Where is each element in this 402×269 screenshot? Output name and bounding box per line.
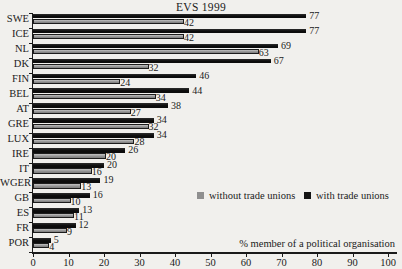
category-label: IT <box>0 164 29 174</box>
y-axis-tick <box>29 88 32 89</box>
x-axis-label: % member of a political organisation <box>239 238 395 249</box>
value-label-without: 32 <box>149 63 159 73</box>
x-axis-tick-label: 40 <box>170 258 181 268</box>
y-axis-tick <box>29 58 32 59</box>
category-label: GRE <box>0 119 29 129</box>
bar-without-trade-unions <box>33 198 71 203</box>
legend-label-without: without trade unions <box>209 190 295 201</box>
y-axis-tick <box>29 222 32 223</box>
category-label: BEL <box>0 89 29 99</box>
y-axis-tick <box>29 163 32 164</box>
value-label-without: 63 <box>259 48 269 58</box>
category-label: WGER <box>0 178 29 188</box>
value-label-with: 12 <box>79 220 89 230</box>
category-label: FR <box>0 223 29 233</box>
value-label-without: 16 <box>92 167 102 177</box>
category-label: GB <box>0 193 29 203</box>
value-label-with: 16 <box>93 190 103 200</box>
value-label-with: 20 <box>107 160 117 170</box>
category-label: ICE <box>0 29 29 39</box>
y-axis-tick <box>29 13 32 14</box>
bar-with-trade-unions <box>33 44 278 49</box>
bar-with-trade-unions <box>33 14 306 19</box>
bar-without-trade-unions <box>33 64 149 69</box>
x-axis-tick-label: 30 <box>134 258 145 268</box>
category-label: LUX <box>0 134 29 144</box>
y-axis-tick <box>29 118 32 119</box>
x-axis-tick-label: 10 <box>63 258 74 268</box>
category-label: IRE <box>0 149 29 159</box>
category-label: NL <box>0 44 29 54</box>
value-label-with: 38 <box>171 101 181 111</box>
value-label-without: 10 <box>71 197 81 207</box>
x-axis-tick-label: 100 <box>380 258 396 268</box>
legend-swatch-without-icon <box>197 192 204 199</box>
bar-without-trade-unions <box>33 228 67 233</box>
y-axis-tick <box>29 252 32 253</box>
bar-without-trade-unions <box>33 183 81 188</box>
value-label-with: 44 <box>192 86 202 96</box>
bar-without-trade-unions <box>33 124 149 129</box>
bar-without-trade-unions <box>33 109 131 114</box>
chart-title: EVS 1999 <box>0 1 402 13</box>
bar-without-trade-unions <box>33 139 134 144</box>
bar-with-trade-unions <box>33 238 51 243</box>
value-label-without: 13 <box>81 182 91 192</box>
y-axis-tick <box>29 237 32 238</box>
bar-with-trade-unions <box>33 74 196 79</box>
value-label-with: 67 <box>274 56 284 66</box>
value-label-without: 9 <box>67 227 72 237</box>
value-label-without: 42 <box>184 33 194 43</box>
bar-with-trade-unions <box>33 103 168 108</box>
value-label-without: 24 <box>120 78 130 88</box>
x-axis-tick-label: 70 <box>276 258 287 268</box>
y-axis-line <box>32 13 33 252</box>
x-axis-tick-label: 50 <box>205 258 216 268</box>
bar-without-trade-unions <box>33 79 120 84</box>
category-label: DK <box>0 59 29 69</box>
value-label-with: 46 <box>199 71 209 81</box>
bar-with-trade-unions <box>33 208 79 213</box>
value-label-with: 19 <box>103 175 113 185</box>
category-label: SWE <box>0 14 29 24</box>
bar-without-trade-unions <box>33 34 184 39</box>
value-label-without: 27 <box>131 108 141 118</box>
value-label-with: 77 <box>309 26 319 36</box>
legend-label-with: with trade unions <box>316 190 389 201</box>
category-label: AT <box>0 104 29 114</box>
value-label-with: 77 <box>309 11 319 21</box>
category-label: FIN <box>0 74 29 84</box>
y-axis-tick <box>29 192 32 193</box>
value-label-without: 4 <box>49 242 54 252</box>
y-axis-tick <box>29 148 32 149</box>
value-label-with: 34 <box>157 130 167 140</box>
y-axis-tick <box>29 207 32 208</box>
value-label-without: 34 <box>156 93 166 103</box>
y-axis-tick <box>29 103 32 104</box>
y-axis-tick <box>29 133 32 134</box>
y-axis-tick <box>29 43 32 44</box>
x-axis-tick-label: 80 <box>312 258 323 268</box>
x-axis-tick-label: 60 <box>241 258 252 268</box>
bar-without-trade-unions <box>33 153 106 158</box>
bar-with-trade-unions <box>33 193 90 198</box>
y-axis-tick <box>29 73 32 74</box>
legend-item-with-trade-unions: with trade unions <box>304 190 389 201</box>
legend-item-without-trade-unions: without trade unions <box>197 190 295 201</box>
value-label-with: 5 <box>54 235 59 245</box>
x-axis-tick-label: 90 <box>347 258 358 268</box>
x-axis-tick-label: 0 <box>30 258 35 268</box>
y-axis-tick <box>29 177 32 178</box>
bar-without-trade-unions <box>33 19 184 24</box>
legend-swatch-with-icon <box>304 192 311 199</box>
bar-with-trade-unions <box>33 118 154 123</box>
category-label: ES <box>0 208 29 218</box>
x-axis-line <box>32 252 397 253</box>
bar-without-trade-unions <box>33 168 92 173</box>
value-label-without: 42 <box>184 18 194 28</box>
bar-without-trade-unions <box>33 213 74 218</box>
category-label: POR <box>0 238 29 248</box>
bar-without-trade-unions <box>33 243 49 248</box>
value-label-with: 69 <box>281 41 291 51</box>
bar-with-trade-unions <box>33 88 189 93</box>
